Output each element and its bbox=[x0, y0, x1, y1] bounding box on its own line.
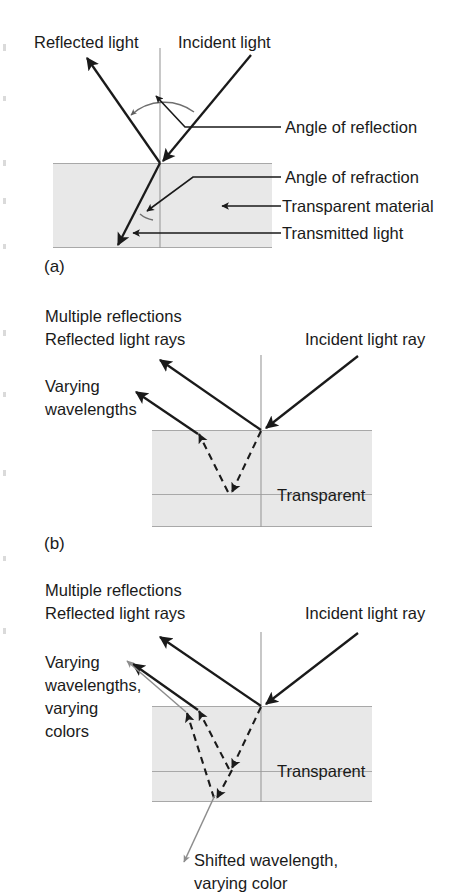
panel-a-label-angle-of-reflection: Angle of reflection bbox=[285, 118, 417, 136]
panel-b-letter: (b) bbox=[44, 534, 65, 553]
panel-b-label-reflected-light-rays: Reflected light rays bbox=[45, 330, 185, 348]
panel-c-label-reflected-light-rays: Reflected light rays bbox=[45, 604, 185, 622]
panel-b-label-varying-line1: Varying bbox=[45, 377, 100, 395]
panel-c-transparent-material bbox=[152, 706, 372, 802]
light-optics-diagram: Reflected light Incident light Angle of … bbox=[0, 0, 457, 893]
figure-root: Reflected light Incident light Angle of … bbox=[0, 0, 457, 893]
panel-c-label-varying-line1: Varying bbox=[45, 653, 100, 671]
panel-b-label-transparent: Transparent bbox=[277, 486, 366, 504]
panel-a-label-incident-light: Incident light bbox=[178, 33, 271, 51]
panel-b-transparent-material bbox=[152, 430, 372, 527]
panel-c-label-varying-line3: varying bbox=[45, 699, 98, 717]
panel-c-label-varying-line2: wavelengths, bbox=[44, 676, 141, 694]
panel-c-label-shifted-line2: varying color bbox=[194, 874, 288, 892]
panel-b-label-varying-line2: wavelengths bbox=[44, 400, 137, 418]
panel-c-label-shifted-line1: Shifted wavelength, bbox=[194, 851, 338, 869]
panel-a-label-transparent-material: Transparent material bbox=[282, 197, 434, 215]
panel-b-label-incident-light-ray: Incident light ray bbox=[305, 330, 426, 348]
panel-c-label-multiple-reflections: Multiple reflections bbox=[45, 581, 182, 599]
panel-a-letter: (a) bbox=[44, 257, 65, 276]
panel-a-label-transmitted-light: Transmitted light bbox=[282, 224, 404, 242]
panel-b-label-multiple-reflections: Multiple reflections bbox=[45, 307, 182, 325]
panel-a-label-angle-of-refraction: Angle of refraction bbox=[285, 168, 419, 186]
panel-c-label-varying-line4: colors bbox=[45, 722, 89, 740]
panel-c-label-transparent: Transparent bbox=[277, 762, 366, 780]
panel-a-label-reflected-light: Reflected light bbox=[34, 33, 139, 51]
panel-c-label-incident-light-ray: Incident light ray bbox=[305, 604, 426, 622]
